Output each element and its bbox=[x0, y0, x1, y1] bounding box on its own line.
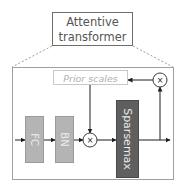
title-box: Attentive transformer bbox=[53, 13, 133, 46]
sparsemax-label: Sparsemax bbox=[121, 108, 134, 170]
prior-scales-label: Prior scales bbox=[63, 73, 117, 84]
attentive-transformer-diagram: Attentive transformer Prior scales FC BN… bbox=[0, 0, 181, 189]
zoom-line-left bbox=[12, 46, 52, 67]
prior-scales-box: Prior scales bbox=[54, 71, 128, 85]
multiply-feedback-icon: × bbox=[153, 73, 167, 87]
fc-label: FC bbox=[29, 133, 40, 146]
sparsemax-block: Sparsemax bbox=[117, 101, 139, 178]
multiply-feedback-symbol: × bbox=[157, 76, 164, 85]
multiply-main-symbol: × bbox=[87, 136, 94, 145]
bn-block: BN bbox=[56, 117, 74, 163]
title-line-1: Attentive bbox=[66, 15, 119, 29]
title-line-2: transformer bbox=[58, 30, 126, 44]
bn-label: BN bbox=[59, 132, 70, 146]
zoom-line-right bbox=[133, 46, 173, 67]
fc-block: FC bbox=[26, 117, 44, 163]
multiply-main-icon: × bbox=[83, 133, 97, 147]
